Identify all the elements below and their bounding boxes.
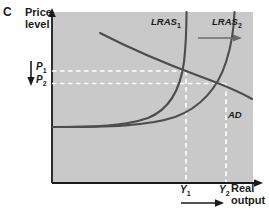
lras1-label: LRAS1: [151, 17, 181, 29]
p1-axis-label: P1: [36, 62, 47, 74]
panel-letter: C: [3, 6, 12, 19]
y-axis-title: Price level: [25, 7, 55, 30]
y2-axis-label: Y2: [219, 185, 230, 197]
output-increase-arrow: [181, 199, 224, 206]
y1-label-text: Y: [180, 184, 187, 195]
p2-label-subscript: 2: [43, 80, 47, 87]
lras1-label-subscript: 1: [177, 22, 181, 29]
diagram-canvas: [0, 0, 269, 215]
lras1-label-text: LRAS: [151, 16, 177, 27]
lras2-label: LRAS2: [212, 17, 242, 29]
y2-label-text: Y: [219, 184, 226, 195]
y2-label-subscript: 2: [226, 190, 230, 197]
p2-axis-label: P2: [36, 75, 47, 87]
y1-label-subscript: 1: [187, 190, 191, 197]
lras2-label-text: LRAS: [212, 16, 238, 27]
price-decrease-arrow: [27, 61, 34, 86]
p1-label-subscript: 1: [43, 67, 47, 74]
x-axis-title: Real output: [231, 183, 269, 206]
lras2-label-subscript: 2: [238, 22, 242, 29]
p2-label-text: P: [36, 74, 43, 85]
p1-label-text: P: [36, 61, 43, 72]
y1-axis-label: Y1: [180, 185, 191, 197]
economics-diagram: C Price level Real output LRAS1 LRAS2 AD…: [0, 0, 269, 215]
ad-label: AD: [228, 110, 242, 120]
